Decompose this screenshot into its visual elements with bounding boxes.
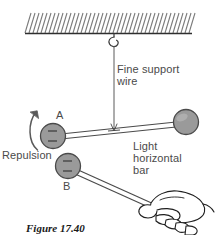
bar-pivot-point bbox=[108, 130, 120, 131]
label-sphere-a: A bbox=[56, 110, 63, 122]
label-repulsion: Repulsion bbox=[2, 150, 52, 162]
label-fine-support-wire: Fine support wire bbox=[117, 64, 179, 88]
ceiling-hook bbox=[109, 34, 118, 47]
hatched-ceiling bbox=[25, 13, 195, 34]
charged-sphere-a bbox=[41, 124, 66, 149]
counterweight-sphere bbox=[174, 110, 199, 135]
label-light-horizontal-bar: Light horizontal bar bbox=[133, 141, 182, 177]
vertical-fine-wire bbox=[111, 46, 117, 131]
physics-figure-electrostatic-repulsion: Fine support wire Light horizontal bar R… bbox=[0, 0, 215, 235]
charged-sphere-b-on-rod bbox=[56, 154, 81, 179]
figure-caption: Figure 17.40 bbox=[26, 222, 85, 234]
figure-drawing-canvas bbox=[0, 0, 215, 235]
label-sphere-b: B bbox=[63, 181, 70, 193]
repulsion-arrowhead bbox=[31, 111, 39, 118]
curved-repulsion-arrow bbox=[30, 111, 39, 150]
hand-holding-rod bbox=[139, 191, 214, 235]
